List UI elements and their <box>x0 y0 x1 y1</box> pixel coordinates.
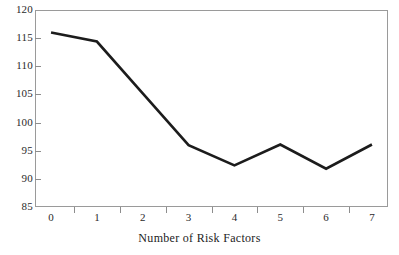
x-tick-label: 1 <box>87 211 107 223</box>
y-tick-mark <box>35 94 41 95</box>
x-tick-label: 4 <box>224 211 244 223</box>
y-tick-mark <box>35 38 41 39</box>
x-tick-label: 3 <box>179 211 199 223</box>
x-tick-label: 7 <box>362 211 382 223</box>
x-tick-mark <box>303 207 304 213</box>
x-tick-mark <box>349 207 350 213</box>
x-axis: 01234567 <box>0 0 399 255</box>
x-tick-mark <box>74 207 75 213</box>
chart-figure: 120115110105100959085 01234567 Number of… <box>0 0 399 255</box>
x-tick-mark <box>257 207 258 213</box>
y-tick-mark <box>35 151 41 152</box>
x-tick-label: 2 <box>133 211 153 223</box>
x-tick-mark <box>120 207 121 213</box>
x-tick-label: 0 <box>41 211 61 223</box>
x-tick-label: 6 <box>316 211 336 223</box>
x-axis-title: Number of Risk Factors <box>0 231 399 246</box>
y-tick-mark <box>35 66 41 67</box>
x-tick-label: 5 <box>270 211 290 223</box>
y-tick-mark <box>35 123 41 124</box>
y-tick-mark <box>35 179 41 180</box>
x-tick-mark <box>212 207 213 213</box>
x-tick-mark <box>166 207 167 213</box>
